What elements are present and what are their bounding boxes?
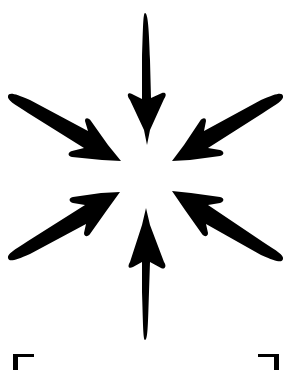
inward-arrows-icon xyxy=(0,0,284,370)
implode-illustration xyxy=(0,0,284,370)
